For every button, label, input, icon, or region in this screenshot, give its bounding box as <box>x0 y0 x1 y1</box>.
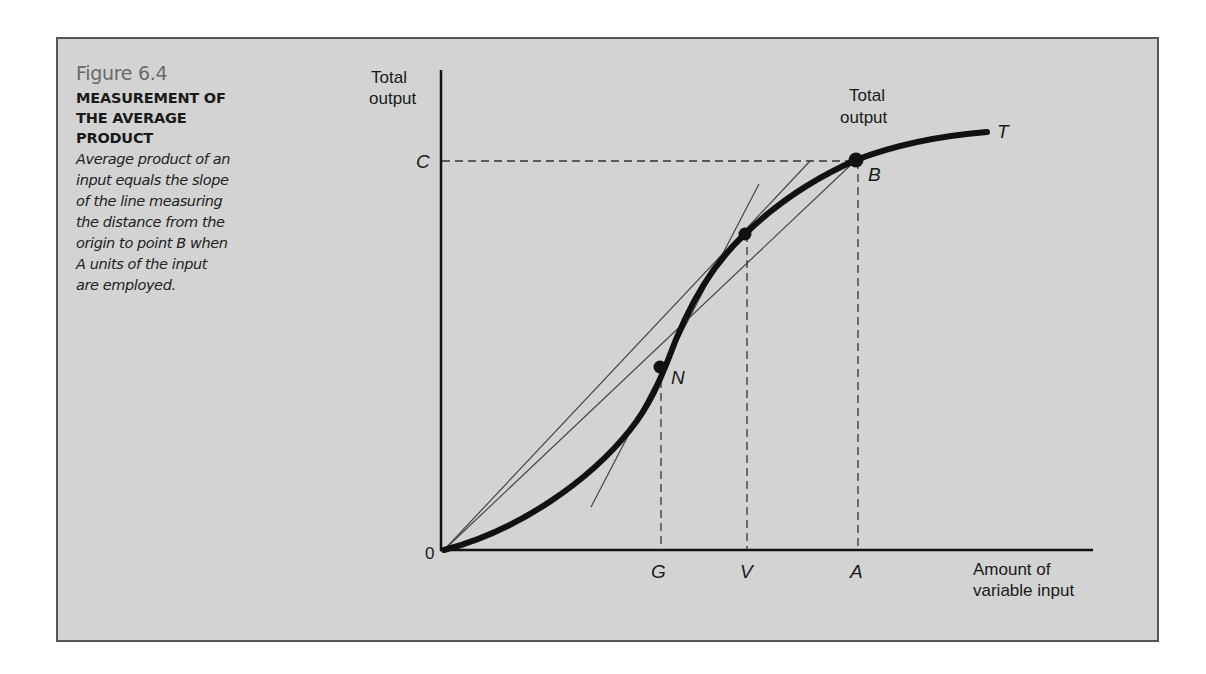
chart: Total output C 0 Total output T B N G V … <box>0 0 1206 674</box>
origin-label: 0 <box>425 544 434 563</box>
curve-label-line2: output <box>840 108 888 127</box>
point-b <box>849 153 864 168</box>
x-axis-label-line1: Amount of <box>973 560 1051 579</box>
y-axis-label-line1: Total <box>371 68 407 87</box>
total-output-curve <box>444 132 987 550</box>
x-tick-g: G <box>651 561 666 582</box>
y-axis-label-line2: output <box>369 89 417 108</box>
ray-origin-to-b <box>444 160 856 550</box>
curve-label-line1: Total <box>849 86 885 105</box>
curve-end-label-t: T <box>997 121 1010 142</box>
point-b-label: B <box>868 164 881 185</box>
point-v <box>739 228 752 241</box>
ray-origin-tangent-v <box>444 160 811 550</box>
point-n-label: N <box>671 367 685 388</box>
x-tick-v: V <box>740 561 755 582</box>
x-tick-a: A <box>849 561 863 582</box>
point-n <box>654 361 667 374</box>
x-axis-label-line2: variable input <box>973 581 1074 600</box>
c-label: C <box>416 151 430 172</box>
